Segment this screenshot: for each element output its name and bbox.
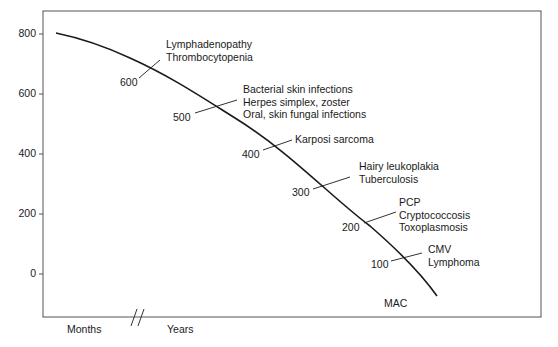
condition-herpes: Herpes simplex, zoster <box>243 96 366 109</box>
annotation-600: Lymphadenopathy Thrombocytopenia <box>166 38 253 63</box>
marker-300: 300 <box>292 186 310 198</box>
marker-500: 500 <box>173 111 191 123</box>
marker-400: 400 <box>242 148 260 160</box>
condition-thrombocytopenia: Thrombocytopenia <box>166 51 253 64</box>
condition-cmv: CMV <box>428 243 480 256</box>
condition-cryptococcosis: Cryptococcosis <box>399 209 470 222</box>
y-tick-200: 200 <box>6 207 36 219</box>
condition-hairy-leukoplakia: Hairy leukoplakia <box>359 160 439 173</box>
annotation-100: CMV Lymphoma <box>428 243 480 268</box>
y-tick-800: 800 <box>6 27 36 39</box>
condition-bacterial-skin: Bacterial skin infections <box>243 83 366 96</box>
y-axis-ticks <box>39 34 43 274</box>
annotation-200: PCP Cryptococcosis Toxoplasmosis <box>399 196 470 234</box>
y-tick-600: 600 <box>6 87 36 99</box>
plot-frame <box>43 11 541 317</box>
condition-lymphoma: Lymphoma <box>428 256 480 269</box>
annotation-400: Karposi sarcoma <box>295 133 374 145</box>
x-label-years: Years <box>167 323 193 335</box>
y-tick-0: 0 <box>6 267 36 279</box>
marker-600: 600 <box>120 76 138 88</box>
annotation-500: Bacterial skin infections Herpes simplex… <box>243 83 366 121</box>
condition-lymphadenopathy: Lymphadenopathy <box>166 38 253 51</box>
y-tick-400: 400 <box>6 147 36 159</box>
marker-200: 200 <box>342 221 360 233</box>
condition-tuberculosis: Tuberculosis <box>359 173 439 186</box>
annotation-300: Hairy leukoplakia Tuberculosis <box>359 160 439 185</box>
condition-fungal: Oral, skin fungal infections <box>243 108 366 121</box>
annotation-mac: MAC <box>384 297 407 309</box>
marker-100: 100 <box>371 258 389 270</box>
chart-canvas <box>0 0 558 347</box>
condition-pcp: PCP <box>399 196 470 209</box>
x-label-months: Months <box>67 323 101 335</box>
condition-karposi: Karposi sarcoma <box>295 133 374 145</box>
condition-toxoplasmosis: Toxoplasmosis <box>399 221 470 234</box>
